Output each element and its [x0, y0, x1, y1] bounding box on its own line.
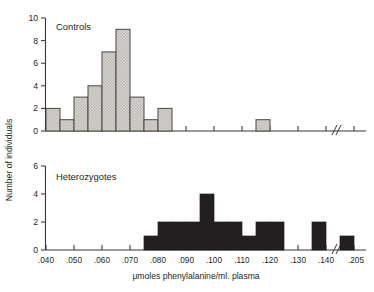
bar: [116, 29, 130, 131]
panel-controls-title: Controls: [56, 21, 91, 32]
svg-text:4: 4: [33, 81, 38, 91]
controls-y-ticks: 0 2 4 6 8 10: [28, 13, 45, 136]
bar: [158, 108, 172, 131]
bar: [46, 108, 60, 131]
svg-text:.070: .070: [122, 256, 138, 265]
y-axis-title: Number of individuals: [4, 119, 14, 202]
x-axis-title: μmoles phenylalanine/ml. plasma: [132, 271, 259, 281]
controls-axis-break-icon: [332, 125, 341, 135]
svg-text:.040: .040: [38, 256, 54, 265]
panel-heterozygotes: Heterozygotes 0 2 4 6: [33, 161, 366, 281]
panel-controls: Controls 0 2 4 6 8 10: [28, 13, 366, 136]
svg-text:0: 0: [33, 245, 38, 255]
bar: [144, 236, 158, 250]
svg-text:.090: .090: [178, 256, 194, 265]
het-bars: [144, 194, 354, 250]
bar: [256, 222, 270, 250]
svg-text:.140: .140: [318, 256, 334, 265]
bar: [200, 194, 214, 250]
svg-text:6: 6: [33, 58, 38, 68]
svg-text:.110: .110: [234, 256, 250, 265]
bar: [256, 120, 270, 131]
svg-text:2: 2: [33, 217, 38, 227]
bar: [102, 52, 116, 131]
svg-text:.205: .205: [348, 256, 364, 265]
bar: [242, 236, 256, 250]
svg-text:0: 0: [33, 126, 38, 136]
y-axis-title-text: Number of individuals: [4, 119, 14, 202]
svg-text:6: 6: [33, 161, 38, 171]
panel-heterozygotes-title: Heterozygotes: [56, 171, 117, 182]
svg-text:.120: .120: [262, 256, 278, 265]
svg-text:.050: .050: [66, 256, 82, 265]
histogram-figure: Number of individuals Controls 0 2 4 6 8: [0, 0, 374, 292]
x-axis-tick-labels: .040 .050 .060 .070 .080 .090 .100 .110 …: [38, 256, 364, 265]
bar: [172, 222, 186, 250]
bar: [130, 97, 144, 131]
controls-bars: [46, 29, 270, 131]
svg-text:4: 4: [33, 189, 38, 199]
svg-text:.100: .100: [206, 256, 222, 265]
bar: [186, 222, 200, 250]
svg-text:.060: .060: [94, 256, 110, 265]
bar: [158, 222, 172, 250]
svg-text:2: 2: [33, 103, 38, 113]
het-axis-break-icon: [332, 244, 341, 254]
bar: [60, 120, 74, 131]
figure-canvas: Number of individuals Controls 0 2 4 6 8: [0, 0, 374, 292]
bar: [88, 86, 102, 131]
bar: [270, 222, 284, 250]
bar: [214, 222, 228, 250]
bar: [144, 120, 158, 131]
bar: [312, 222, 326, 250]
svg-text:.130: .130: [290, 256, 306, 265]
svg-text:8: 8: [33, 36, 38, 46]
svg-text:.080: .080: [150, 256, 166, 265]
bar: [228, 222, 242, 250]
svg-text:10: 10: [28, 13, 38, 23]
bar: [74, 97, 88, 131]
bar: [340, 236, 354, 250]
het-y-ticks: 0 2 4 6: [33, 161, 45, 255]
